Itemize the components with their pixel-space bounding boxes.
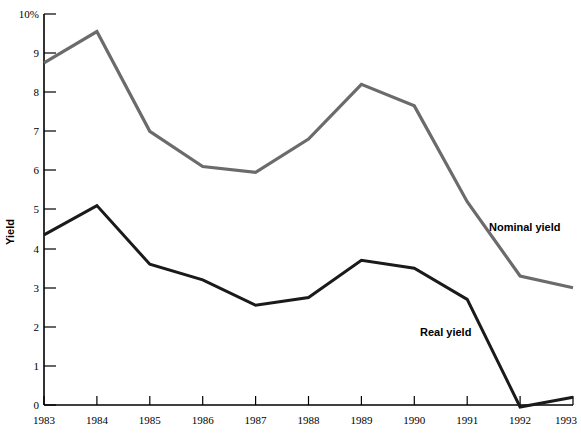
y-tick-label-0: 0 [34,399,40,411]
x-tick-label-1987: 1987 [245,414,268,426]
series-line-nominal-yield [44,32,573,288]
series-label-nominal-yield: Nominal yield [489,221,561,233]
x-tick-label-1989: 1989 [350,414,373,426]
x-tick-label-1990: 1990 [403,414,426,426]
x-tick-label-1983: 1983 [33,414,56,426]
y-tick-label-7: 7 [34,125,40,137]
x-tick-label-1985: 1985 [139,414,162,426]
y-axis-title: Yield [4,219,16,245]
y-tick-label-4: 4 [34,243,40,255]
chart-canvas: 10% 9 8 7 6 5 4 3 2 1 0 Yield 1983198419… [0,0,581,435]
y-tick-label-8: 8 [34,86,40,98]
x-tick-label-1986: 1986 [192,414,215,426]
x-tick-label-1992: 1992 [509,414,531,426]
series-label-real-yield: Real yield [420,326,471,338]
x-axis-ticks [44,396,573,405]
y-tick-label-5: 5 [34,203,40,215]
x-tick-label-1991: 1991 [456,414,478,426]
y-tick-label-2: 2 [34,321,40,333]
y-tick-label-10: 10% [19,8,39,20]
y-tick-label-1: 1 [34,360,40,372]
x-axis-tick-labels: 1983198419851986198719881989199019911992… [33,414,578,426]
x-tick-label-1988: 1988 [298,414,321,426]
y-tick-label-9: 9 [34,47,40,59]
series-line-real-yield [44,206,573,407]
y-tick-label-6: 6 [34,164,40,176]
x-tick-label-1984: 1984 [86,414,109,426]
yield-line-chart: 10% 9 8 7 6 5 4 3 2 1 0 Yield 1983198419… [0,0,581,435]
y-tick-label-3: 3 [34,282,40,294]
y-axis-ticks [44,14,56,405]
x-tick-label-1993: 1993 [555,414,578,426]
